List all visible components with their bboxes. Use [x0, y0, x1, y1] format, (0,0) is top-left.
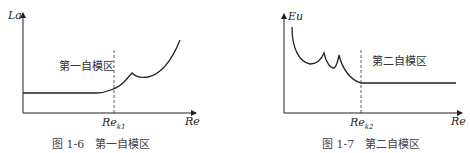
fig1-region-label: 第一自模区	[59, 57, 114, 73]
fig1-caption: 图 1-6 第一自模区	[52, 135, 150, 151]
fig1-critical-label: Rek1	[102, 116, 126, 131]
fig2-region-label: 第二自模区	[372, 52, 427, 68]
fig2-critical-label: Rek2	[350, 116, 374, 131]
fig2-ylabel: Eu	[288, 10, 303, 23]
fig1-ylabel: La	[8, 9, 22, 22]
fig1-xlabel: Re	[185, 115, 200, 128]
charts-svg	[0, 0, 470, 153]
fig2-caption: 图 1-7 第二自模区	[322, 135, 420, 151]
fig2-xlabel: Re	[451, 115, 466, 128]
figure-pair: La Re Rek1 第一自模区 图 1-6 第一自模区 Eu Re Rek2 …	[0, 0, 470, 153]
